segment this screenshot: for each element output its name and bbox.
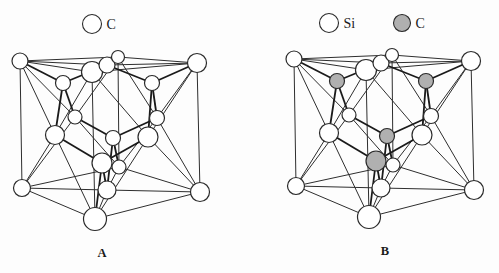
atom-interior-upper-left <box>330 74 345 89</box>
atom-interior-lower-front <box>92 153 112 173</box>
lattice-line <box>294 59 296 186</box>
atom-corner-top-back <box>386 49 399 62</box>
atom-interior-lower-front <box>366 151 386 171</box>
atom-interior-middle <box>106 131 121 146</box>
legend-label-C: C <box>107 17 116 32</box>
lattice-line <box>366 70 422 135</box>
structure-B <box>286 49 484 229</box>
legend-label-C: C <box>416 16 425 31</box>
atom-corner-bottom-front <box>358 206 381 229</box>
atom-corner-top-left <box>12 53 28 69</box>
lattice-line <box>20 61 22 188</box>
atom-corner-bottom-left <box>288 178 305 195</box>
structure-caption-B: B <box>381 244 389 258</box>
atom-face-center-bottom <box>372 179 390 197</box>
atom-face-center-back-right <box>424 109 439 124</box>
atom-face-center-left-front <box>46 126 65 145</box>
atom-corner-top-back <box>112 51 125 64</box>
atom-face-center-right-front <box>138 127 158 147</box>
structure-A <box>12 51 210 231</box>
atom-corner-top-right <box>188 54 207 73</box>
atom-face-center-back-right <box>150 111 165 126</box>
lattice-line <box>366 70 369 217</box>
atom-corner-bottom-front <box>84 208 107 231</box>
atom-face-center-bottom <box>98 181 116 199</box>
lattice-line <box>92 72 148 137</box>
atom-interior-upper-right <box>145 76 160 91</box>
structure-caption-A: A <box>97 246 106 260</box>
atom-corner-bottom-left <box>14 180 31 197</box>
lattice-line <box>392 55 393 165</box>
legend-swatch-Si <box>320 14 339 33</box>
lattice-line <box>392 55 471 61</box>
lattice-line <box>471 61 474 190</box>
atom-interior-upper-left <box>56 76 71 91</box>
lattice-line <box>118 57 119 167</box>
atom-interior-middle <box>380 129 395 144</box>
atom-corner-bottom-back <box>386 158 400 172</box>
lattice-line <box>118 57 197 63</box>
legend-swatch-C <box>83 15 102 34</box>
atom-corner-top-right <box>462 52 481 71</box>
atom-corner-top-left <box>286 51 302 67</box>
atom-corner-bottom-right <box>191 183 210 202</box>
legend-label-Si: Si <box>344 16 356 31</box>
lattice-line <box>107 190 200 192</box>
lattice-line <box>294 59 329 133</box>
lattice-line <box>92 72 95 219</box>
atom-corner-bottom-right <box>465 181 484 200</box>
atom-face-center-back-left <box>342 108 356 122</box>
atom-face-center-right-front <box>412 125 432 145</box>
legend-swatch-C <box>394 15 411 32</box>
atom-corner-bottom-back <box>112 160 126 174</box>
lattice-line <box>197 63 200 192</box>
lattice-line <box>20 61 55 135</box>
figure-canvas: CASiCB <box>0 0 499 273</box>
atom-face-center-left-front <box>320 124 339 143</box>
atom-face-center-back-left <box>68 110 82 124</box>
atom-interior-upper-right <box>419 74 434 89</box>
lattice-line <box>381 188 474 190</box>
crystal-structure-figure: CASiCB <box>0 0 499 273</box>
